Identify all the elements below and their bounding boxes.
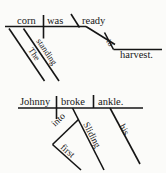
diagram-2-prep-object: first bbox=[59, 142, 77, 160]
diagram-1-verb: was bbox=[47, 15, 63, 26]
diagram-2-preposition: into bbox=[49, 111, 67, 129]
diagram-1-infinitive-object: harvest. bbox=[120, 49, 153, 60]
sentence-diagram-figure: corn was ready harvest. The standing to bbox=[0, 0, 166, 173]
diagram-2-group: Johnny broke ankle. Sliding into first h… bbox=[18, 95, 143, 170]
diagram-2-verb: broke bbox=[61, 96, 85, 107]
diagram-1-subject: corn bbox=[17, 15, 36, 26]
diagram-2-subject: Johnny bbox=[20, 96, 51, 107]
diagram-1-group: corn was ready harvest. The standing to bbox=[5, 14, 162, 81]
diagram-1-predicate-adjective-separator bbox=[71, 14, 80, 28]
diagram-1-predicate-adjective: ready bbox=[82, 15, 106, 26]
diagram-2-participle: Sliding bbox=[81, 120, 102, 149]
diagram-2-direct-object: ankle. bbox=[98, 96, 123, 107]
diagram-2-object-modifier-slant bbox=[110, 108, 140, 164]
